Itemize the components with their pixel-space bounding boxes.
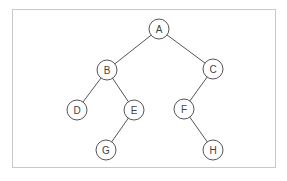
node-g: G: [96, 140, 116, 160]
tree-edges: [77, 29, 213, 150]
node-c: C: [203, 59, 223, 79]
node-label: F: [181, 104, 187, 115]
node-d: D: [67, 100, 87, 120]
node-b: B: [97, 60, 117, 80]
node-label: H: [209, 145, 216, 156]
node-label: C: [209, 64, 216, 75]
node-f: F: [174, 99, 194, 119]
node-label: D: [73, 105, 80, 116]
node-a: A: [149, 19, 169, 39]
binary-tree-diagram: ABCDEFGH: [0, 0, 287, 181]
node-label: A: [156, 24, 163, 35]
node-e: E: [124, 100, 144, 120]
node-h: H: [203, 140, 223, 160]
node-label: B: [104, 65, 111, 76]
node-label: E: [131, 105, 138, 116]
node-label: G: [102, 145, 110, 156]
